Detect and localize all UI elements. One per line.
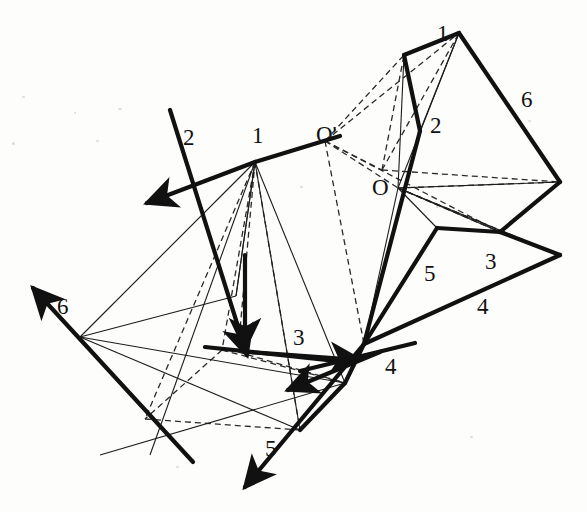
scan-speck <box>300 186 303 188</box>
figure-label-left-4: 4 <box>385 355 397 378</box>
figure-label-right-5: 5 <box>424 262 436 285</box>
scan-speck <box>528 120 531 122</box>
scan-speck <box>176 466 179 468</box>
figure-label-right-2: 2 <box>430 114 442 137</box>
figure-label-right-6: 6 <box>521 88 533 111</box>
right-solid-thick-outline <box>364 33 560 344</box>
arrow-3 <box>205 255 345 362</box>
figure-label-left-2: 2 <box>183 126 195 149</box>
scan-speck <box>118 108 122 110</box>
figure-canvas: 21O'162O3546345 <box>0 0 587 512</box>
left-solid-thin-edges <box>80 162 345 455</box>
figure-label-left-1: 1 <box>252 124 264 147</box>
figure-label-right-4: 4 <box>477 295 489 318</box>
figure-label-left-3: 3 <box>293 326 305 349</box>
figure-label-left-5: 5 <box>265 437 277 460</box>
scan-speck <box>470 436 473 438</box>
figure-label-o-prime: O' <box>316 123 337 146</box>
diagram-svg <box>0 0 587 512</box>
scan-speck <box>22 96 25 98</box>
arrow-2 <box>170 110 247 355</box>
scan-speck <box>96 140 99 142</box>
scan-speck <box>436 206 439 208</box>
figure-label-left-6: 6 <box>57 295 69 318</box>
figure-label-o-point: O <box>372 176 389 199</box>
scan-speck <box>74 112 76 114</box>
right-solid-dashed-edges <box>325 33 560 344</box>
figure-label-right-3: 3 <box>485 250 497 273</box>
figure-label-right-1: 1 <box>437 22 449 45</box>
scan-speck <box>12 142 15 145</box>
